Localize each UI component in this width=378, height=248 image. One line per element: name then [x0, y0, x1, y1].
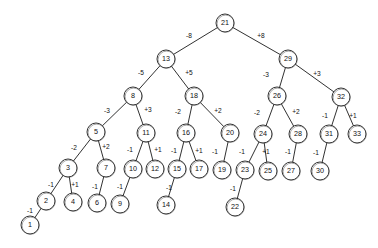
tree-node[interactable]: 13: [157, 50, 175, 68]
tree-node[interactable]: 10: [124, 160, 142, 178]
node-value-label: 29: [284, 54, 292, 63]
tree-node[interactable]: 19: [213, 161, 231, 179]
node-value-label: 23: [241, 165, 249, 174]
node-value-label: 4: [71, 197, 75, 206]
tree-node[interactable]: 1: [21, 216, 39, 234]
node-value-label: 22: [231, 202, 239, 211]
tree-node[interactable]: 23: [236, 161, 254, 179]
tree-edge: [237, 179, 242, 199]
tree-edge: [295, 64, 333, 92]
tree-node[interactable]: 29: [279, 50, 297, 68]
node-value-label: 24: [259, 129, 267, 138]
tree-node[interactable]: 17: [190, 160, 208, 178]
tree-node[interactable]: 33: [348, 125, 366, 143]
tree-node[interactable]: 12: [146, 160, 164, 178]
node-value-label: 10: [129, 164, 137, 173]
node-value-label: 3: [66, 163, 70, 172]
edge-weight-label: +2: [102, 143, 110, 150]
edge-weight-label: +1: [262, 148, 270, 155]
edge-weight-label: -5: [138, 69, 144, 76]
tree-node[interactable]: 22: [226, 198, 244, 216]
edges-layer: [35, 27, 353, 217]
tree-edge: [136, 104, 143, 124]
edge-weight-label: -1: [322, 112, 328, 119]
edge-weight-label: +8: [257, 32, 265, 39]
node-value-label: 13: [162, 54, 170, 63]
tree-diagram-canvas: 2113298182632511162024283133371012151719…: [0, 0, 378, 248]
node-value-label: 25: [264, 166, 272, 175]
tree-node[interactable]: 6: [88, 194, 106, 212]
node-value-label: 18: [190, 91, 198, 100]
tree-edge: [174, 28, 218, 55]
tree-node[interactable]: 3: [59, 159, 77, 177]
edge-weight-label: +2: [214, 107, 222, 114]
tree-node[interactable]: 7: [97, 159, 115, 177]
tree-edge: [35, 208, 41, 217]
tree-node[interactable]: 4: [64, 193, 82, 211]
edge-weight-label: +3: [313, 70, 321, 77]
tree-node[interactable]: 24: [254, 125, 272, 143]
tree-node[interactable]: 28: [289, 125, 307, 143]
node-value-label: 19: [218, 165, 226, 174]
tree-node[interactable]: 31: [320, 125, 338, 143]
edge-weight-label: -3: [263, 71, 269, 78]
edge-weight-label: +1: [195, 147, 203, 154]
edge-weight-label: -1: [117, 183, 123, 190]
tree-edge: [148, 142, 153, 161]
node-value-label: 20: [226, 128, 234, 137]
tree-node[interactable]: 20: [221, 124, 239, 142]
edge-weight-label: -1: [166, 184, 172, 191]
tree-edge: [266, 104, 274, 125]
node-value-label: 6: [95, 198, 99, 207]
edge-weight-label: -1: [127, 146, 133, 153]
node-value-label: 15: [173, 164, 181, 173]
tree-node[interactable]: 18: [185, 87, 203, 105]
node-value-label: 17: [195, 164, 203, 173]
tree-node[interactable]: 32: [332, 88, 350, 106]
node-value-label: 5: [94, 127, 98, 136]
edge-weight-label: -1: [230, 185, 236, 192]
edge-weight-label: -2: [71, 144, 77, 151]
node-value-label: 9: [118, 199, 122, 208]
edge-weight-label: +2: [292, 108, 300, 115]
tree-edge: [293, 143, 297, 162]
node-value-label: 1: [28, 220, 32, 229]
tree-edge: [99, 177, 104, 195]
node-value-label: 7: [104, 163, 108, 172]
tree-edge: [280, 68, 286, 88]
edge-weight-label: -1: [313, 149, 319, 156]
tree-node[interactable]: 9: [111, 195, 129, 213]
node-value-label: 27: [287, 166, 295, 175]
node-value-label: 26: [273, 91, 281, 100]
edge-labels-layer: -8+8-5+5-3+3-3+3-2+2-2+2-1+1-2+2-1+1-1+1…: [27, 32, 357, 214]
tree-node[interactable]: 21: [216, 14, 234, 32]
tree-node[interactable]: 26: [268, 87, 286, 105]
node-value-label: 28: [294, 129, 302, 138]
tree-node[interactable]: 8: [124, 87, 142, 105]
tree-edge: [224, 142, 228, 161]
edge-weight-label: -1: [285, 148, 291, 155]
tree-edge: [188, 105, 192, 124]
edge-weight-label: -2: [175, 108, 181, 115]
tree-edge: [136, 141, 143, 160]
node-value-label: 12: [151, 164, 159, 173]
edge-weight-label: -1: [212, 148, 218, 155]
node-value-label: 33: [353, 129, 361, 138]
node-value-label: 8: [131, 91, 135, 100]
tree-node[interactable]: 15: [168, 160, 186, 178]
tree-node[interactable]: 5: [87, 123, 105, 141]
edge-weight-label: -1: [239, 148, 245, 155]
node-value-label: 14: [162, 200, 170, 209]
tree-node[interactable]: 30: [311, 162, 329, 180]
tree-node[interactable]: 25: [259, 162, 277, 180]
tree-node[interactable]: 16: [177, 124, 195, 142]
tree-node[interactable]: 11: [137, 124, 155, 142]
tree-node[interactable]: 2: [37, 192, 55, 210]
edge-weight-label: -2: [254, 109, 260, 116]
edge-weight-label: +1: [349, 112, 357, 119]
edge-weight-label: -1: [92, 183, 98, 190]
node-value-label: 31: [325, 129, 333, 138]
tree-edge: [123, 177, 130, 195]
tree-node[interactable]: 27: [282, 162, 300, 180]
tree-node[interactable]: 14: [157, 196, 175, 214]
